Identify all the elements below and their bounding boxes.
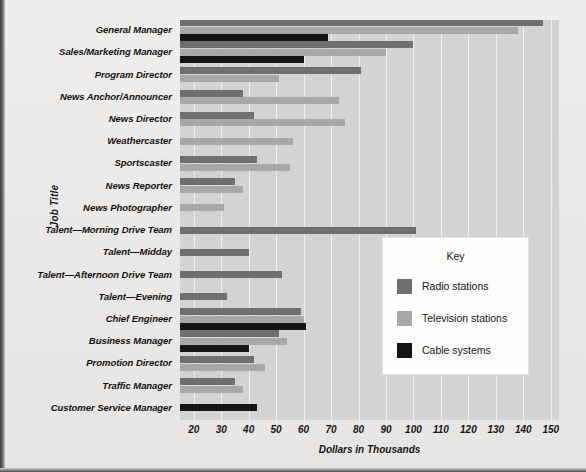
y-axis-tick-label: Chief Engineer bbox=[26, 313, 172, 324]
bar-radio bbox=[180, 378, 235, 385]
bar-television bbox=[180, 316, 304, 323]
x-axis-title: Dollars in Thousands bbox=[180, 444, 559, 455]
gridline bbox=[304, 20, 305, 420]
legend-swatch-radio bbox=[397, 279, 412, 294]
bar-cable bbox=[180, 404, 257, 411]
bar-radio bbox=[180, 156, 257, 163]
bar-television bbox=[180, 164, 290, 171]
bar-television bbox=[180, 138, 293, 145]
y-axis-tick-label: News Photographer bbox=[26, 202, 172, 213]
bar-television bbox=[180, 27, 518, 34]
bar-television bbox=[180, 338, 287, 345]
bar-cable bbox=[180, 345, 249, 352]
bar-radio bbox=[180, 249, 249, 256]
y-axis-tick-label: Sales/Marketing Manager bbox=[26, 46, 172, 57]
y-axis-tick-label: Sportscaster bbox=[26, 157, 172, 168]
bar-radio bbox=[180, 308, 301, 315]
legend-label: Cable systems bbox=[422, 344, 491, 356]
legend-swatch-television bbox=[397, 311, 412, 326]
y-axis-tick-label: Talent—Afternoon Drive Team bbox=[26, 269, 172, 280]
y-axis-tick-label: Program Director bbox=[26, 69, 172, 80]
y-axis-tick-label: News Anchor/Announcer bbox=[26, 91, 172, 102]
legend-key-box: Key Radio stationsTelevision stationsCab… bbox=[383, 238, 528, 374]
bar-radio bbox=[180, 90, 243, 97]
legend-swatch-cable bbox=[397, 343, 412, 358]
legend-label: Television stations bbox=[422, 312, 507, 324]
gridline bbox=[331, 20, 332, 420]
y-axis-tick-label: General Manager bbox=[26, 24, 172, 35]
y-axis-tick-label: Talent—Morning Drive Team bbox=[26, 224, 172, 235]
bar-radio bbox=[180, 330, 279, 337]
bar-television bbox=[180, 386, 243, 393]
y-axis-tick-labels: General ManagerSales/Marketing ManagerPr… bbox=[30, 20, 176, 420]
bar-television bbox=[180, 119, 345, 126]
bar-cable bbox=[180, 323, 306, 330]
bar-radio bbox=[180, 271, 282, 278]
gridline bbox=[359, 20, 360, 420]
bar-television bbox=[180, 75, 279, 82]
bar-radio bbox=[180, 356, 254, 363]
bar-radio bbox=[180, 41, 413, 48]
bar-television bbox=[180, 364, 265, 371]
bar-radio bbox=[180, 67, 361, 74]
y-axis-tick-label: News Reporter bbox=[26, 180, 172, 191]
y-axis-tick-label: Traffic Manager bbox=[26, 380, 172, 391]
gridline bbox=[551, 20, 552, 420]
bar-chart-figure: Job Title General ManagerSales/Marketing… bbox=[0, 0, 586, 472]
bar-television bbox=[180, 204, 224, 211]
bar-cable bbox=[180, 34, 328, 41]
bar-radio bbox=[180, 293, 227, 300]
bar-television bbox=[180, 186, 243, 193]
legend-label: Radio stations bbox=[422, 280, 489, 292]
x-axis-tick-label: 150 bbox=[531, 424, 571, 435]
bar-radio bbox=[180, 227, 416, 234]
bar-radio bbox=[180, 20, 543, 26]
y-axis-tick-label: Business Manager bbox=[26, 335, 172, 346]
y-axis-tick-label: Customer Service Manager bbox=[26, 402, 172, 413]
bar-television bbox=[180, 49, 386, 56]
legend-title: Key bbox=[383, 250, 528, 262]
bar-television bbox=[180, 97, 339, 104]
y-axis-tick-label: Promotion Director bbox=[26, 357, 172, 368]
bar-radio bbox=[180, 178, 235, 185]
y-axis-tick-label: Talent—Evening bbox=[26, 291, 172, 302]
x-axis-tick-labels: 2030405060708090100110120130140150 bbox=[180, 424, 559, 440]
y-axis-tick-label: Talent—Midday bbox=[26, 246, 172, 257]
y-axis-tick-label: Weathercaster bbox=[26, 135, 172, 146]
bar-radio bbox=[180, 112, 254, 119]
bar-cable bbox=[180, 56, 304, 63]
y-axis-tick-label: News Director bbox=[26, 113, 172, 124]
